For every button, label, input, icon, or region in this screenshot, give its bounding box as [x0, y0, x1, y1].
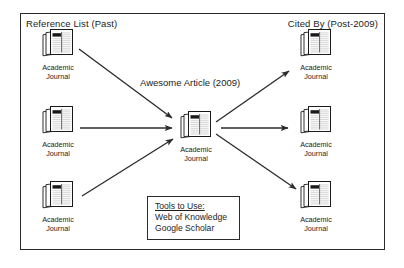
tools-item-web-of-knowledge: Web of Knowledge — [155, 212, 232, 223]
node-cited-3: Academic Journal — [288, 180, 344, 233]
node-caption: Academic Journal — [288, 141, 344, 158]
journal-stack-icon — [30, 28, 86, 62]
tools-item-google-scholar: Google Scholar — [155, 223, 232, 234]
journal-stack-icon — [288, 105, 344, 139]
node-reference-1: Academic Journal — [30, 28, 86, 81]
node-reference-2: Academic Journal — [30, 105, 86, 158]
node-caption: Academic Journal — [30, 216, 86, 233]
node-cited-1: Academic Journal — [288, 28, 344, 81]
journal-stack-icon — [30, 105, 86, 139]
journal-stack-icon — [288, 180, 344, 214]
node-reference-3: Academic Journal — [30, 180, 86, 233]
diagram-canvas: Reference List (Past) Cited By (Post-200… — [0, 0, 404, 268]
center-article-label: Awesome Article (2009) — [140, 77, 240, 88]
tools-to-use-box: Tools to Use: Web of Knowledge Google Sc… — [147, 196, 240, 240]
node-cited-2: Academic Journal — [288, 105, 344, 158]
node-caption: Academic Journal — [30, 141, 86, 158]
node-caption: Academic Journal — [168, 146, 224, 163]
tools-box-title: Tools to Use: — [155, 201, 232, 212]
journal-stack-icon — [288, 28, 344, 62]
node-caption: Academic Journal — [30, 64, 86, 81]
node-caption: Academic Journal — [288, 64, 344, 81]
node-center-article: Academic Journal — [168, 110, 224, 163]
journal-stack-icon — [168, 110, 224, 144]
journal-stack-icon — [30, 180, 86, 214]
node-caption: Academic Journal — [288, 216, 344, 233]
